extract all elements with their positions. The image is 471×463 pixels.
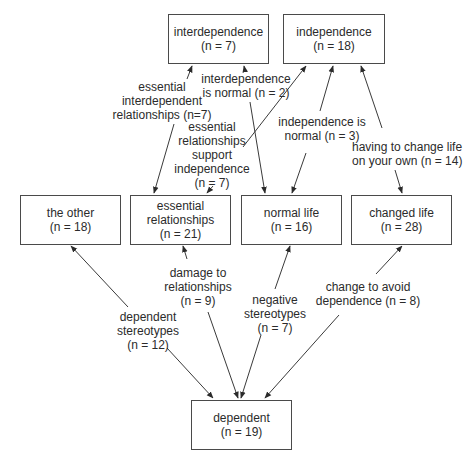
- node-title-line1: essential: [157, 199, 204, 213]
- node-essential-relationships: essential relationships (n = 21): [130, 195, 231, 245]
- node-interdependence: interdependence (n = 7): [168, 14, 269, 64]
- node-count: (n = 28): [381, 220, 423, 234]
- node-normal-life: normal life (n = 16): [241, 195, 342, 245]
- edge-label-interdependence-normal: interdependence is normal (n = 2): [196, 72, 296, 100]
- label-line: interdependence: [196, 72, 296, 86]
- label-line: relationships: [172, 134, 252, 148]
- label-line: dependent: [110, 310, 186, 324]
- label-line: dependence (n = 8): [312, 294, 424, 308]
- edge-dependent-stereotypes-top: [71, 246, 128, 307]
- node-count: (n = 16): [271, 220, 313, 234]
- node-the-other: the other (n = 18): [20, 195, 121, 245]
- node-title: dependent: [213, 411, 270, 425]
- edge-negative-stereotypes-bottom: [241, 335, 261, 398]
- node-title-line2: relationships: [147, 213, 214, 227]
- node-count: (n = 21): [160, 227, 202, 241]
- concept-diagram: interdependence (n = 7) independence (n …: [0, 0, 471, 463]
- edge-independence-normal-top: [320, 66, 333, 111]
- label-line: is normal (n = 2): [196, 86, 296, 100]
- edge-change-life-bottom: [395, 170, 402, 193]
- edge-damage-bottom: [208, 312, 238, 398]
- edge-essential-interdependent-top: [187, 66, 192, 79]
- node-dependent: dependent (n = 19): [191, 400, 292, 450]
- label-line: stereotypes: [240, 307, 310, 321]
- label-line: essential: [172, 120, 252, 134]
- label-line: relationships: [160, 280, 236, 294]
- edge-damage-top: [183, 246, 187, 259]
- edge-dependent-stereotypes-bottom: [167, 348, 213, 398]
- edge-label-damage-relationships: damage to relationships (n = 9): [160, 266, 236, 308]
- edge-label-change-life-alone: having to change life on your own (n = 1…: [352, 140, 470, 168]
- edge-negative-stereotypes-top: [275, 246, 290, 289]
- node-independence: independence (n = 18): [283, 14, 385, 64]
- label-line: (n = 7): [172, 176, 252, 190]
- edge-avoid-dependence-top: [376, 246, 402, 274]
- node-title: changed life: [369, 206, 434, 220]
- node-title: the other: [47, 206, 94, 220]
- node-count: (n = 19): [221, 425, 263, 439]
- label-line: independence: [172, 162, 252, 176]
- node-changed-life: changed life (n = 28): [351, 195, 452, 245]
- node-count: (n = 18): [50, 220, 92, 234]
- label-line: stereotypes: [110, 324, 186, 338]
- label-line: negative: [240, 293, 310, 307]
- edge-label-support-independence: essential relationships support independ…: [172, 120, 252, 190]
- label-line: support: [172, 148, 252, 162]
- label-line: damage to: [160, 266, 236, 280]
- node-count: (n = 7): [201, 39, 236, 53]
- label-line: (n = 7): [240, 321, 310, 335]
- node-count: (n = 18): [313, 39, 355, 53]
- label-line: change to avoid: [312, 280, 424, 294]
- node-title: interdependence: [174, 25, 263, 39]
- label-line: independence is: [274, 115, 370, 129]
- edge-independence-normal-bottom: [292, 153, 306, 193]
- edge-essential-interdependent-bottom: [154, 124, 174, 193]
- edge-interdependence-normal-bottom: [250, 102, 265, 193]
- label-line: (n = 12): [110, 338, 186, 352]
- label-line: (n = 9): [160, 294, 236, 308]
- node-title: normal life: [264, 206, 319, 220]
- label-line: on your own (n = 14): [352, 154, 470, 168]
- node-title: independence: [296, 25, 371, 39]
- edge-label-negative-stereotypes: negative stereotypes (n = 7): [240, 293, 310, 335]
- edge-label-independence-normal: independence is normal (n = 3): [274, 115, 370, 143]
- edge-label-avoid-dependence: change to avoid dependence (n = 8): [312, 280, 424, 308]
- edge-label-dependent-stereotypes: dependent stereotypes (n = 12): [110, 310, 186, 352]
- edge-interdependence-normal-top: [244, 66, 245, 71]
- label-line: having to change life: [352, 140, 470, 154]
